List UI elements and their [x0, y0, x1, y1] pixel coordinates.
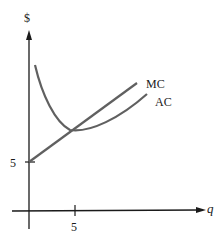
x-axis [12, 210, 199, 211]
y-axis-arrow-icon [26, 30, 32, 40]
y-tick-label: 5 [10, 157, 16, 169]
x-tick-label: 5 [71, 221, 77, 233]
ac-curve [35, 65, 147, 130]
x-axis-arrow-icon [196, 207, 206, 213]
mc-label: MC [146, 78, 165, 90]
ac-label: AC [155, 96, 172, 108]
x-axis-label: q [207, 202, 214, 215]
cost-curves-diagram [0, 0, 214, 244]
y-axis-label: $ [24, 12, 30, 24]
